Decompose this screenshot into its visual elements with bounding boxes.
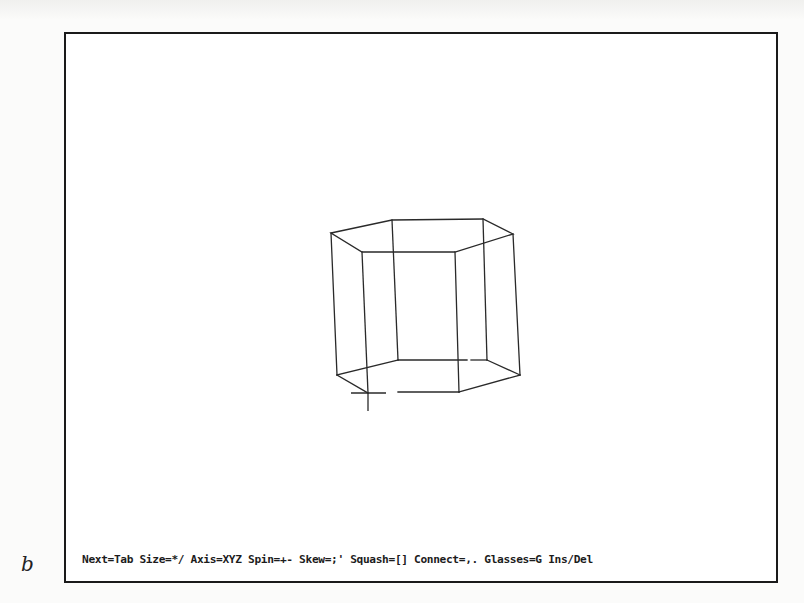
figure-panel-label: b [21,552,34,576]
program-screen [64,32,778,583]
page-edge-shadow [0,0,804,20]
key-command-status-bar: Next=Tab Size=*/ Axis=XYZ Spin=+- Skew=;… [82,551,772,569]
